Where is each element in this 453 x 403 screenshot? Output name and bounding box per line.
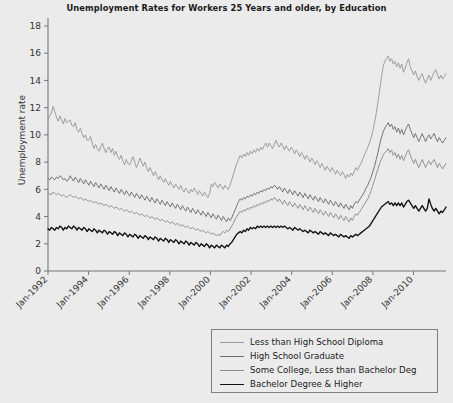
legend-swatch-icon <box>220 370 244 371</box>
x-tick-label: Jan-1998 <box>135 274 171 310</box>
x-tick-label: Jan-2008 <box>338 274 374 310</box>
legend-swatch-icon <box>220 356 244 357</box>
y-tick-label: 0 <box>35 266 41 276</box>
legend-label: Some College, Less than Bachelor Deg <box>250 365 416 375</box>
legend-label: Less than High School Diploma <box>250 337 383 347</box>
x-tick-label: Jan-1996 <box>95 274 131 310</box>
chart-legend: Less than High School DiplomaHigh School… <box>211 329 438 393</box>
legend-swatch-icon <box>220 384 244 385</box>
x-tick-label: Jan-2006 <box>298 274 334 310</box>
x-tick-label: Jan-1994 <box>54 274 90 310</box>
series-line-2 <box>48 149 446 236</box>
x-tick-label: Jan-1992 <box>13 274 49 310</box>
series-line-1 <box>48 123 446 222</box>
x-tick-label: Jan-2004 <box>257 274 293 310</box>
legend-swatch-icon <box>220 342 244 343</box>
x-tick-label: Jan-2000 <box>176 274 212 310</box>
y-tick-label: 16 <box>30 48 42 58</box>
series-line-0 <box>48 56 446 198</box>
x-tick-label: Jan-2002 <box>216 274 252 310</box>
legend-item-3[interactable]: Bachelor Degree & Higher <box>220 376 363 392</box>
y-tick-label: 8 <box>35 157 41 167</box>
y-tick-label: 10 <box>30 130 42 140</box>
chart-root: Unemployment Rates for Workers 25 Years … <box>0 0 453 403</box>
y-tick-label: 18 <box>30 21 42 31</box>
legend-label: Bachelor Degree & Higher <box>250 379 363 389</box>
x-tick-label: Jan-2010 <box>379 274 415 310</box>
legend-label: High School Graduate <box>250 351 344 361</box>
y-tick-label: 14 <box>30 76 42 86</box>
y-tick-label: 12 <box>30 103 41 113</box>
y-tick-label: 2 <box>35 239 41 249</box>
y-tick-label: 4 <box>35 212 41 222</box>
y-tick-label: 6 <box>35 185 41 195</box>
